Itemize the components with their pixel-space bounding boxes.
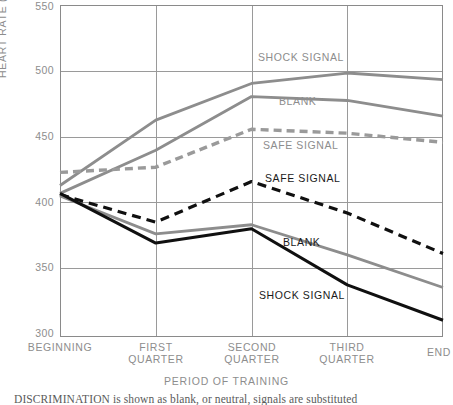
x-tick-label-second-quarter: SECOND QUARTER <box>207 342 297 365</box>
x-tick-line2: QUARTER <box>111 354 201 366</box>
x-axis-title: PERIOD OF TRAINING <box>0 375 453 387</box>
x-tick-line1: END <box>394 347 453 359</box>
heart-rate-line-chart: HEART RATE (BEATS PER MINUTE) 550 500 45… <box>0 0 453 405</box>
x-tick-label-end: END <box>394 347 453 359</box>
x-tick-label-first-quarter: FIRST QUARTER <box>111 342 201 365</box>
x-tick-line2: QUARTER <box>302 354 392 366</box>
x-tick-line1: FIRST <box>111 342 201 354</box>
x-tick-line1: BEGINNING <box>15 342 105 354</box>
series-label-blank-upper: BLANK <box>279 95 316 107</box>
series-label-shock-signal-lower: SHOCK SIGNAL <box>259 289 345 301</box>
x-tick-line2: QUARTER <box>207 354 297 366</box>
series-label-safe-signal-upper: SAFE SIGNAL <box>263 139 338 151</box>
x-tick-label-third-quarter: THIRD QUARTER <box>302 342 392 365</box>
x-tick-label-beginning: BEGINNING <box>15 342 105 354</box>
x-tick-line1: THIRD <box>302 342 392 354</box>
x-tick-line1: SECOND <box>207 342 297 354</box>
series-label-shock-signal-upper: SHOCK SIGNAL <box>258 51 344 63</box>
series-label-blank-lower: BLANK <box>283 236 320 248</box>
figure-caption: DISCRIMINATION is shown as blank, or neu… <box>14 393 444 405</box>
series-line-blank-lower <box>60 196 443 288</box>
series-label-safe-signal-lower: SAFE SIGNAL <box>265 172 340 184</box>
